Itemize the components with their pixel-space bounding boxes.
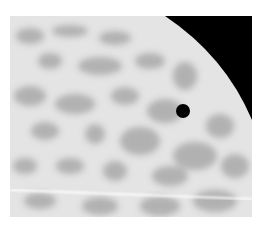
astronomical-photo	[10, 16, 252, 217]
transit-dot	[176, 104, 190, 118]
